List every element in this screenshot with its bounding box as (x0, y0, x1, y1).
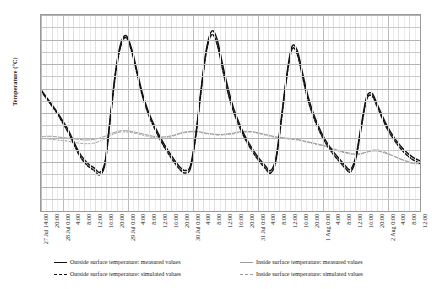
x-tick-label: 8:00 (151, 203, 157, 214)
x-tick-label: 20:00 (184, 200, 190, 214)
x-tick-label: 4:00 (205, 203, 211, 214)
legend-swatch-icon (54, 259, 67, 266)
legend-label: Outside surface temperature: measured va… (70, 259, 181, 265)
x-tick-label: 2 Aug 0:00 (390, 187, 396, 214)
x-tick-label: 20:00 (119, 200, 125, 214)
legend-label: Inside surface temperature: measured val… (256, 259, 363, 265)
x-tick-label: 16:00 (238, 200, 244, 214)
x-tick-label: 8:00 (281, 203, 287, 214)
x-tick-label: 8:00 (411, 203, 417, 214)
x-tick-label: 31 Jul 0:00 (260, 187, 266, 214)
legend-column-2: Inside surface temperature: measured val… (240, 256, 363, 280)
x-tick-label: 16:00 (173, 200, 179, 214)
x-tick-label: 12:00 (227, 200, 233, 214)
x-tick-label: 16:00 (303, 200, 309, 214)
x-tick-label: 20:00 (54, 200, 60, 214)
legend-item: Outside surface temperature: measured va… (54, 256, 181, 268)
x-tick-label: 16:00 (368, 200, 374, 214)
legend-swatch-icon (240, 271, 253, 278)
chart-legend: Outside surface temperature: measured va… (44, 256, 422, 284)
x-tick-label: 8:00 (216, 203, 222, 214)
x-tick-label: 4:00 (400, 203, 406, 214)
x-tick-label: 30 Jul 0:00 (195, 187, 201, 214)
x-tick-label: 27 Jul 14:00 (43, 184, 49, 214)
legend-item: Inside surface temperature: simulated va… (240, 268, 363, 280)
temperature-chart: Temperature (°C) 48464442403836343230282… (0, 0, 432, 289)
legend-swatch-icon (54, 271, 67, 278)
x-tick-label: 4:00 (270, 203, 276, 214)
x-tick-label: 4:00 (75, 203, 81, 214)
x-tick-label: 12:00 (292, 200, 298, 214)
legend-item: Outside surface temperature: simulated v… (54, 268, 181, 280)
x-tick-label: 12:00 (357, 200, 363, 214)
x-tick-label: 29 Jul 0:00 (130, 187, 136, 214)
x-tick-label: 28 Jul 0:00 (65, 187, 71, 214)
x-tick-label: 20:00 (249, 200, 255, 214)
x-tick-label: 16:00 (108, 200, 114, 214)
x-tick-label: 8:00 (346, 203, 352, 214)
legend-label: Inside surface temperature: simulated va… (256, 271, 363, 277)
x-tick-label: 4:00 (335, 203, 341, 214)
legend-column-1: Outside surface temperature: measured va… (54, 256, 181, 280)
x-tick-label: 12:00 (162, 200, 168, 214)
x-tick-label: 8:00 (86, 203, 92, 214)
x-tick-label: 12:00 (97, 200, 103, 214)
x-tick-label: 1 Aug 0:00 (325, 187, 331, 214)
x-tick-label: 20:00 (379, 200, 385, 214)
x-axis-ticks: 27 Jul 14:0020:0028 Jul 0:004:008:0012:0… (0, 0, 432, 289)
legend-item: Inside surface temperature: measured val… (240, 256, 363, 268)
x-tick-label: 4:00 (140, 203, 146, 214)
x-tick-label: 20:00 (314, 200, 320, 214)
x-tick-label: 12:00 (422, 200, 428, 214)
legend-label: Outside surface temperature: simulated v… (70, 271, 181, 277)
legend-swatch-icon (240, 259, 253, 266)
